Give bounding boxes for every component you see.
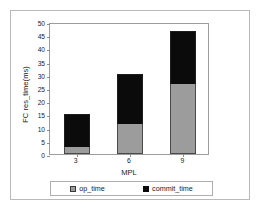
y-axis-tick-mark [47,77,50,78]
y-axis-tick-label: 25 [31,87,45,93]
chart-plot-wrapper: FC res_time(ms) 05101520253035404550 369… [11,11,251,201]
y-axis-tick-label: 35 [31,61,45,67]
y-axis-tick-mark [47,64,50,65]
stacked-bar[interactable] [64,114,90,154]
y-axis-tick-label: 40 [31,47,45,53]
legend-entry[interactable]: op_time [70,184,105,193]
y-axis-tick-label: 10 [31,127,45,133]
bar-segment-op-time[interactable] [117,124,143,154]
bar-segment-commit-time[interactable] [117,74,143,124]
y-axis-tick-label: 15 [31,113,45,119]
legend-entry[interactable]: commit_time [143,184,193,193]
y-axis-tick-label: 30 [31,74,45,80]
gray-square-swatch [70,186,76,192]
y-axis-tick-label: 0 [31,153,45,159]
y-axis-tick-label: 20 [31,100,45,106]
x-axis-title: MPL [49,168,209,177]
figure-frame: FC res_time(ms) 05101520253035404550 369… [10,10,250,200]
y-axis-tick-labels: 05101520253035404550 [31,23,45,155]
x-axis-tick-label: 9 [170,157,194,164]
y-axis-tick-mark [47,37,50,38]
y-axis-tick-label: 50 [31,21,45,27]
bar-segment-op-time[interactable] [64,147,90,154]
y-axis-tick-mark [47,143,50,144]
bar-segment-op-time[interactable] [170,84,196,154]
chart-legend: op_timecommit_time [50,181,213,196]
y-axis-tick-label: 45 [31,34,45,40]
y-axis-title-label: FC res_time(ms) [21,66,30,123]
stacked-bar[interactable] [170,31,196,154]
y-axis-tick-mark [47,116,50,117]
y-axis-title: FC res_time(ms) [19,41,31,147]
x-axis-tick-label: 3 [64,157,88,164]
bars-layer [50,24,208,154]
y-axis-tick-mark [47,130,50,131]
bar-segment-commit-time[interactable] [170,31,196,84]
y-axis-tick-mark [47,50,50,51]
y-axis-tick-label: 5 [31,140,45,146]
plot-area [49,23,209,155]
black-square-swatch [143,186,149,192]
legend-entry-label: commit_time [152,184,193,193]
y-axis-tick-mark [47,103,50,104]
legend-entry-label: op_time [79,184,105,193]
bar-segment-commit-time[interactable] [64,114,90,147]
y-axis-tick-mark [47,24,50,25]
stacked-bar[interactable] [117,74,143,154]
x-axis-tick-label: 6 [117,157,141,164]
y-axis-tick-mark [47,90,50,91]
